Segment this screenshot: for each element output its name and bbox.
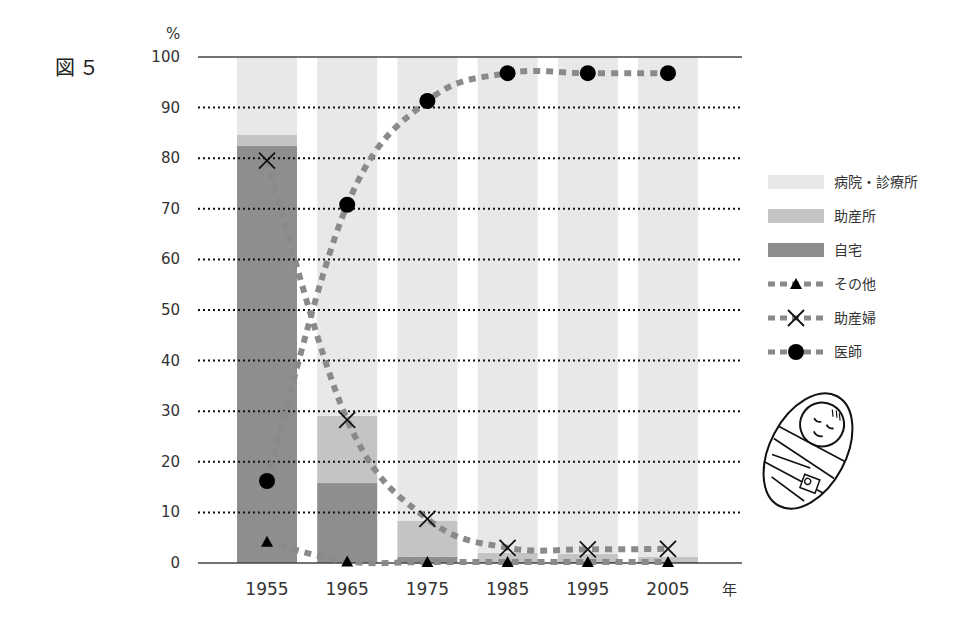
legend: 病院・診療所助産所自宅その他助産婦医師: [768, 174, 918, 360]
bar-segment-2-1975: [397, 521, 457, 557]
legend-item: 自宅: [768, 242, 862, 258]
marker-circle-1965: [339, 197, 355, 213]
legend-item: 病院・診療所: [768, 174, 918, 190]
legend-label: 病院・診療所: [834, 174, 918, 190]
swaddled-baby-illustration: [745, 378, 870, 523]
bar-segment-1-1965: [317, 483, 377, 563]
legend-item: その他: [768, 276, 876, 292]
x-tick-label: 1955: [245, 579, 288, 599]
bar-segment-3-1995: [558, 57, 618, 554]
bar-segment-3-2005: [638, 57, 698, 557]
marker-circle-1995: [580, 65, 596, 81]
y-tick-label: 50: [161, 301, 180, 319]
legend-marker-triangle: [790, 278, 802, 289]
bar-segment-3-1985: [478, 57, 538, 553]
chart: % 年 010203040506070809010019551965197519…: [0, 0, 978, 628]
bar-segment-3-1955: [237, 57, 297, 135]
y-tick-label: 100: [151, 48, 180, 66]
legend-item: 助産婦: [768, 310, 876, 326]
legend-marker-x: [788, 310, 804, 326]
y-tick-label: 70: [161, 200, 180, 218]
legend-label: 自宅: [834, 242, 862, 258]
y-tick-label: 60: [161, 250, 180, 268]
y-tick-label: 20: [161, 453, 180, 471]
bar-segment-3-1975: [397, 57, 457, 521]
x-tick-label: 2005: [646, 579, 689, 599]
marker-circle-1975: [419, 93, 435, 109]
legend-label: その他: [834, 276, 876, 292]
x-tick-label: 1965: [326, 579, 369, 599]
y-tick-label: 30: [161, 402, 180, 420]
legend-marker-circle: [788, 344, 804, 360]
marker-circle-1955: [259, 473, 275, 489]
marker-circle-1985: [500, 65, 516, 81]
legend-label: 医師: [834, 344, 862, 360]
y-tick-label: 40: [161, 352, 180, 370]
y-tick-label: 10: [161, 503, 180, 521]
y-axis-unit: %: [166, 25, 180, 43]
marker-circle-2005: [660, 65, 676, 81]
x-axis-unit: 年: [722, 581, 737, 599]
legend-swatch: [768, 243, 824, 257]
legend-label: 助産婦: [834, 310, 876, 326]
x-tick-label: 1985: [486, 579, 529, 599]
bar-segment-2-1955: [237, 135, 297, 146]
legend-swatch: [768, 175, 824, 189]
legend-swatch: [768, 209, 824, 223]
legend-item: 医師: [768, 344, 862, 360]
legend-item: 助産所: [768, 208, 876, 224]
x-tick-label: 1975: [406, 579, 449, 599]
y-tick-label: 80: [161, 149, 180, 167]
y-tick-label: 0: [170, 554, 180, 572]
x-tick-label: 1995: [566, 579, 609, 599]
legend-label: 助産所: [834, 208, 876, 224]
y-tick-label: 90: [161, 99, 180, 117]
